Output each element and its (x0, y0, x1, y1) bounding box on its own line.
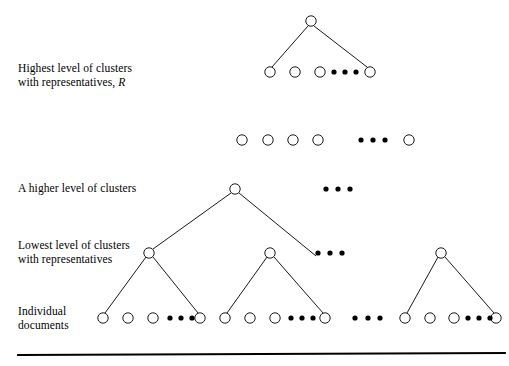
cluster-node (98, 313, 108, 323)
cluster-node (365, 67, 375, 77)
cluster-node (270, 313, 280, 323)
cluster-node (436, 248, 446, 258)
label-line-2: with representatives (18, 253, 130, 267)
cluster-node (315, 67, 325, 77)
row-intermediate-row (237, 135, 414, 145)
label-line-1: Individual (18, 305, 69, 319)
ellipsis-dot (353, 69, 358, 74)
tree-edge (153, 257, 198, 313)
ellipsis-dot (487, 315, 492, 320)
tree-edge (153, 193, 231, 249)
tree-edge (227, 257, 267, 313)
label-highest-level: Highest level of clusterswith representa… (18, 62, 132, 89)
label-line-1: Lowest level of clusters (18, 239, 130, 253)
row-root-row (306, 16, 316, 26)
tree-edge (445, 257, 494, 313)
label-line-2-text: with representatives (18, 253, 112, 265)
ellipsis-dot (358, 137, 363, 142)
cluster-node (400, 313, 410, 323)
cluster-node (288, 135, 298, 145)
tree-edge (407, 257, 438, 313)
ellipsis-dot (189, 315, 194, 320)
label-line-1: A higher level of clusters (18, 182, 136, 196)
cluster-node (320, 313, 330, 323)
cluster-node (195, 313, 205, 323)
label-line-2: with representatives, R (18, 76, 132, 90)
ellipsis-dot (476, 315, 481, 320)
cluster-node (148, 313, 158, 323)
ellipsis-dot (339, 250, 344, 255)
cluster-node (265, 248, 275, 258)
cluster-node (449, 313, 459, 323)
tree-edge (274, 257, 323, 313)
cluster-node (290, 67, 300, 77)
ellipsis-dot (299, 315, 304, 320)
cluster-node (263, 135, 273, 145)
row-documents-row (98, 313, 501, 323)
row-higher-level-row (230, 184, 353, 194)
ellipsis-dot (465, 315, 470, 320)
tree-edge (239, 193, 316, 256)
label-line-2-text: documents (18, 319, 69, 331)
label-line-2-text: with representatives, (18, 76, 115, 88)
label-representative-symbol: R (115, 76, 125, 88)
ellipsis-dot (327, 250, 332, 255)
ellipsis-dot (382, 137, 387, 142)
cluster-node (265, 67, 275, 77)
label-higher-level: A higher level of clusters (18, 182, 136, 196)
baseline-rule (18, 353, 505, 355)
cluster-node (220, 313, 230, 323)
cluster-hierarchy-figure: Highest level of clusterswith representa… (0, 0, 509, 366)
label-line-2: documents (18, 319, 69, 333)
ellipsis-dot (167, 315, 172, 320)
cluster-node (245, 313, 255, 323)
ellipsis-dot (377, 315, 382, 320)
ellipsis-dot (323, 186, 328, 191)
ellipsis-dot (310, 315, 315, 320)
ellipsis-dot (178, 315, 183, 320)
ellipsis-dot (347, 186, 352, 191)
row-highest-level-row (265, 67, 375, 77)
cluster-node (237, 135, 247, 145)
cluster-node (123, 313, 133, 323)
cluster-node (313, 135, 323, 145)
ellipsis-dot (331, 69, 336, 74)
row-lowest-level-row (144, 248, 446, 258)
cluster-node (230, 184, 240, 194)
label-individual-documents: Individualdocuments (18, 305, 69, 332)
ellipsis-dot (365, 315, 370, 320)
label-line-1: Highest level of clusters (18, 62, 132, 76)
tree-edge (272, 26, 308, 67)
tree-edge (314, 26, 367, 67)
ellipsis-dot (370, 137, 375, 142)
ellipsis-dot (288, 315, 293, 320)
ellipsis-dot (335, 186, 340, 191)
ellipsis-dot (342, 69, 347, 74)
cluster-node (306, 16, 316, 26)
ellipsis-dot (352, 315, 357, 320)
label-lowest-level: Lowest level of clusterswith representat… (18, 239, 130, 266)
cluster-node (144, 248, 154, 258)
ellipsis-dot (315, 250, 320, 255)
cluster-node (404, 135, 414, 145)
cluster-node (425, 313, 435, 323)
